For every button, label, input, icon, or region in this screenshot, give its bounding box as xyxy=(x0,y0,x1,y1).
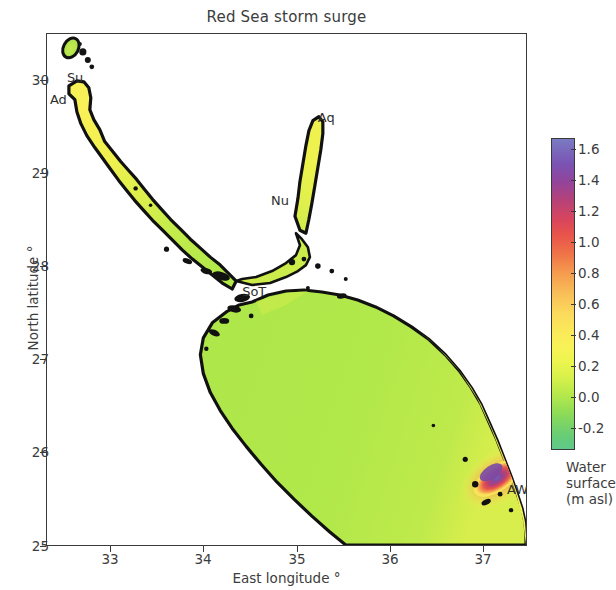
colorbar-title-line-3: (m asl) xyxy=(566,491,616,507)
cbar-tick-1.0 xyxy=(571,242,576,243)
cbar-label-1.0: 1.0 xyxy=(578,234,599,250)
cbar-label-0.4: 0.4 xyxy=(578,327,599,343)
cbar-label-0.8: 0.8 xyxy=(578,265,599,281)
cbar-tick-neg0.2 xyxy=(571,428,576,429)
xtick-label-33: 33 xyxy=(101,551,118,567)
page-title: Red Sea storm surge xyxy=(46,8,527,26)
ytick-label-26: 26 xyxy=(32,444,49,460)
bitter-lakes xyxy=(59,35,94,69)
colorbar-title: Water surface (m asl) xyxy=(566,459,616,507)
xtick-label-36: 36 xyxy=(381,551,398,567)
map-label-nu: Nu xyxy=(271,193,289,208)
cbar-label-0.6: 0.6 xyxy=(578,296,599,312)
gulf-of-suez xyxy=(69,81,236,289)
colorbar-title-line-1: Water xyxy=(566,459,616,475)
ytick-label-30: 30 xyxy=(32,72,49,88)
map-label-aq: Aq xyxy=(318,110,335,125)
map-label-aw: AW xyxy=(507,482,526,497)
x-axis-label: East longitude ° xyxy=(46,570,527,586)
xtick-label-34: 34 xyxy=(194,551,211,567)
cbar-label-0.2: 0.2 xyxy=(578,358,599,374)
cbar-tick-1.4 xyxy=(571,180,576,181)
ytick-label-25: 25 xyxy=(32,538,49,554)
cbar-tick-0.0 xyxy=(571,397,576,398)
cbar-tick-1.2 xyxy=(571,211,576,212)
gulf-of-aqaba xyxy=(295,117,323,234)
xtick-label-37: 37 xyxy=(474,551,491,567)
cbar-label-1.4: 1.4 xyxy=(578,172,599,188)
map-axes: Su Ad Aq Nu SoT AW xyxy=(46,33,527,546)
cbar-tick-0.4 xyxy=(571,335,576,336)
cbar-tick-0.6 xyxy=(571,304,576,305)
colorbar xyxy=(551,138,575,450)
strait-of-tiran xyxy=(236,233,310,285)
cbar-label-0.0: 0.0 xyxy=(578,389,599,405)
y-axis-label: North latitude ° xyxy=(25,168,41,428)
cbar-tick-0.8 xyxy=(571,273,576,274)
colorbar-title-line-2: surface xyxy=(566,475,616,491)
cbar-tick-1.6 xyxy=(571,149,576,150)
map-label-su: Su xyxy=(67,70,83,85)
storm-surge-heatmap: Su Ad Aq Nu SoT AW xyxy=(47,34,526,545)
cbar-label-neg0.2: -0.2 xyxy=(578,420,604,436)
map-label-sot: SoT xyxy=(242,284,266,299)
cbar-label-1.2: 1.2 xyxy=(578,203,599,219)
xtick-label-35: 35 xyxy=(288,551,305,567)
cbar-tick-0.2 xyxy=(571,366,576,367)
cbar-label-1.6: 1.6 xyxy=(578,141,599,157)
map-label-ad: Ad xyxy=(50,92,67,107)
